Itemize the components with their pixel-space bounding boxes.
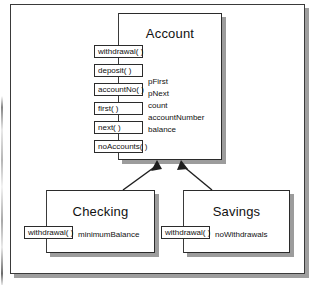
savings-attribute-nowithdrawals: noWithdrawals	[215, 229, 267, 240]
account-operation-accountno[interactable]: accountNo( )	[94, 83, 143, 96]
checking-operation-spine	[46, 190, 47, 253]
checking-class-box[interactable]: Checking	[46, 190, 155, 253]
account-attribute-pfirst: pFirst	[148, 76, 168, 87]
account-operation-next[interactable]: next( )	[94, 121, 143, 134]
account-attribute-pnext: pNext	[148, 88, 169, 99]
account-operation-noaccounts[interactable]: noAccounts( )	[94, 140, 143, 153]
uml-class-diagram: Account withdrawal( ) deposit( ) account…	[0, 0, 316, 285]
account-operation-withdrawal[interactable]: withdrawal( )	[94, 45, 143, 58]
account-operation-deposit[interactable]: deposit( )	[94, 64, 143, 77]
savings-class-title: Savings	[184, 204, 289, 219]
account-attribute-accountnumber: accountNumber	[148, 112, 204, 123]
savings-class-box[interactable]: Savings	[183, 190, 290, 253]
checking-attribute-minimumbalance: minimumBalance	[78, 229, 139, 240]
savings-operation-withdrawal[interactable]: withdrawal( )	[161, 226, 210, 239]
account-attribute-balance: balance	[148, 124, 176, 135]
account-attribute-count: count	[148, 100, 168, 111]
savings-operation-spine	[183, 190, 184, 253]
account-operation-first[interactable]: first( )	[94, 102, 143, 115]
checking-class-title: Checking	[47, 204, 154, 219]
account-class-title: Account	[119, 26, 221, 41]
checking-operation-withdrawal[interactable]: withdrawal( )	[24, 226, 73, 239]
scan-edge-artifact	[1, 96, 3, 285]
